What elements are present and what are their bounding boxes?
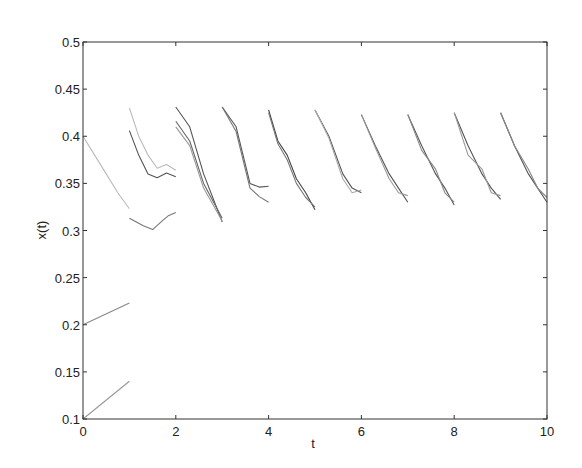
x-tick-label: 6 [358,424,365,439]
series-line [454,113,500,200]
line-chart: 0246810 0.10.150.20.250.30.350.40.450.5 … [0,0,582,468]
series-line [269,113,315,207]
series-line [83,303,129,325]
x-tick-label: 10 [540,424,554,439]
x-axis-label: t [311,436,315,451]
series-line [129,108,175,170]
y-tick-label: 0.1 [62,412,80,427]
y-axis: 0.10.150.20.250.30.350.40.450.5 [55,35,547,427]
x-tick-label: 0 [79,424,86,439]
y-tick-label: 0.5 [62,35,80,50]
series-line [83,136,129,209]
x-tick-label: 8 [451,424,458,439]
y-tick-label: 0.45 [55,82,80,97]
series-line [129,131,175,178]
series-line [361,115,407,203]
series-line [501,113,547,198]
y-tick-label: 0.25 [55,271,80,286]
series-line [408,115,454,206]
series-line [315,110,361,193]
y-tick-label: 0.4 [62,129,80,144]
x-tick-label: 4 [265,424,272,439]
series-line [408,115,454,203]
y-tick-label: 0.35 [55,176,80,191]
series-line [501,113,547,203]
x-tick-label: 2 [172,424,179,439]
series-line [269,110,315,210]
series-line [83,381,129,419]
y-tick-label: 0.3 [62,224,80,239]
series-line [222,107,268,202]
y-tick-label: 0.2 [62,318,80,333]
series-line [361,115,407,196]
y-axis-label: x(t) [34,221,49,240]
plot-lines [83,107,547,419]
series-line [129,213,175,230]
x-axis: 0246810 [79,42,554,439]
series-line [454,113,500,196]
y-tick-label: 0.15 [55,365,80,380]
plot-frame [83,42,547,419]
series-line [176,127,222,221]
